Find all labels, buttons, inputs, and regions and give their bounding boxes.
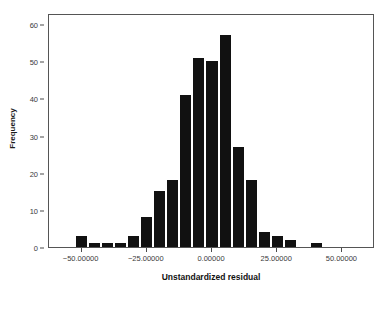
x-tick-mark — [341, 248, 342, 252]
x-tick-label: −25.00000 — [128, 254, 164, 263]
y-tick-label: 50 — [30, 58, 38, 67]
y-tick-mark — [40, 173, 44, 174]
histogram-bar — [166, 180, 179, 247]
histogram-bar — [179, 95, 192, 247]
histogram-bar — [284, 240, 297, 247]
histogram-bar — [192, 58, 205, 247]
x-tick-label: −50.00000 — [63, 254, 99, 263]
y-tick-label: 0 — [34, 244, 38, 253]
histogram-bar — [140, 217, 153, 247]
y-axis-title-text: Frequency — [8, 108, 17, 148]
y-tick-mark — [40, 99, 44, 100]
y-tick-label: 40 — [30, 95, 38, 104]
y-tick-mark — [40, 25, 44, 26]
y-tick-mark — [40, 210, 44, 211]
plot-area — [48, 14, 374, 248]
x-tick-label: 25.00000 — [261, 254, 292, 263]
x-tick-mark — [146, 248, 147, 252]
x-tick-mark — [81, 248, 82, 252]
y-axis-ticks: 0102030405060 — [18, 0, 44, 315]
histogram-bar — [258, 232, 271, 247]
y-tick-mark — [40, 248, 44, 249]
x-axis-ticks: −50.00000−25.000000.0000025.0000050.0000… — [48, 248, 374, 270]
histogram-bar — [114, 243, 127, 247]
x-tick-mark — [211, 248, 212, 252]
y-tick-label: 60 — [30, 21, 38, 30]
histogram-figure: Frequency 0102030405060 −50.00000−25.000… — [0, 0, 384, 315]
histogram-bar — [205, 61, 218, 247]
histogram-bar — [127, 236, 140, 247]
histogram-bar — [232, 147, 245, 247]
histogram-bar — [271, 236, 284, 247]
x-axis-title: Unstandardized residual — [48, 272, 374, 282]
y-tick-label: 30 — [30, 132, 38, 141]
x-tick-mark — [276, 248, 277, 252]
y-tick-label: 20 — [30, 169, 38, 178]
histogram-bars — [49, 15, 373, 247]
x-tick-label: 50.00000 — [326, 254, 357, 263]
y-tick-label: 10 — [30, 206, 38, 215]
histogram-bar — [101, 243, 114, 247]
x-tick-label: 0.00000 — [197, 254, 224, 263]
histogram-bar — [219, 35, 232, 247]
histogram-bar — [310, 243, 323, 247]
histogram-bar — [245, 180, 258, 247]
histogram-bar — [88, 243, 101, 247]
y-tick-mark — [40, 62, 44, 63]
histogram-bar — [75, 236, 88, 247]
y-tick-mark — [40, 136, 44, 137]
histogram-bar — [153, 191, 166, 247]
